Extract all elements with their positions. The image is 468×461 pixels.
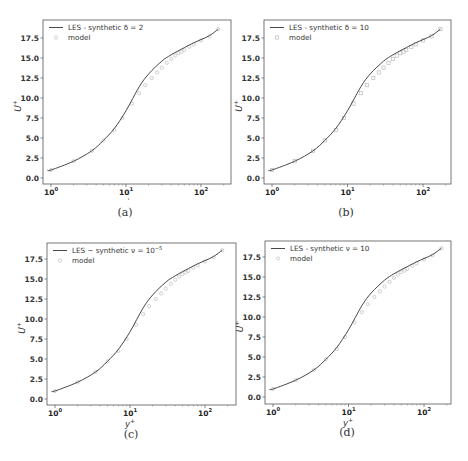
legend-label-model: model — [290, 254, 312, 263]
y-tick-label: 2.5 — [248, 373, 261, 382]
y-tick-label: 15.0 — [242, 273, 261, 282]
chart-panel-d: 0.02.55.07.510.012.515.017.5U+100101102y… — [0, 0, 468, 430]
x-tick-label: 102 — [417, 406, 431, 417]
x-tick-label: 100 — [266, 406, 280, 417]
y-tick-label: 5.0 — [248, 353, 261, 362]
caption-d: (d) — [327, 426, 367, 439]
x-axis: 100101102 — [266, 404, 447, 417]
y-tick-label: 10.0 — [242, 313, 261, 322]
svg-text:U+: U+ — [233, 321, 245, 333]
chart-svg: 0.02.55.07.510.012.515.017.5U+100101102y… — [0, 0, 468, 430]
y-axis-label: U+ — [233, 321, 245, 333]
y-tick-label: 12.5 — [242, 293, 261, 302]
y-tick-label: 0.0 — [248, 393, 261, 402]
y-axis: 0.02.55.07.510.012.515.017.5 — [242, 253, 265, 402]
plot-frame — [265, 241, 451, 404]
y-tick-label: 17.5 — [242, 253, 261, 262]
y-tick-label: 7.5 — [248, 333, 261, 342]
legend-label-les: LES - synthetic ν = 10 — [290, 244, 370, 253]
